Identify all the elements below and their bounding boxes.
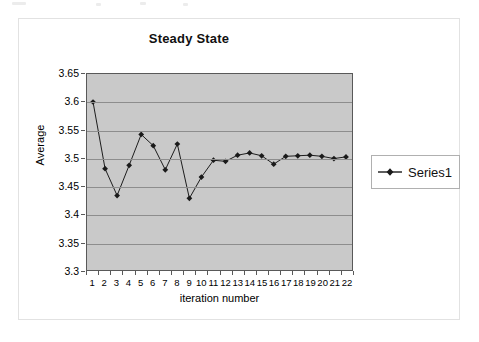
y-axis-tick-mark <box>81 158 85 159</box>
y-axis-tick-mark <box>81 243 85 244</box>
x-axis-tick-label: 5 <box>138 277 143 288</box>
chart-object-frame: Steady State Average 3.653.63.553.53.453… <box>18 18 460 320</box>
data-point-marker <box>114 193 120 199</box>
y-axis-tick-labels: 3.653.63.553.53.453.43.353.3 <box>37 73 83 271</box>
x-axis-tick-mark <box>98 271 99 275</box>
x-axis-tick-mark <box>292 271 293 275</box>
data-point-marker <box>187 195 193 201</box>
data-point-marker <box>126 162 132 168</box>
x-axis-tick-label: 13 <box>232 277 243 288</box>
y-axis-tick-label: 3.5 <box>64 152 79 164</box>
data-point-marker <box>271 161 277 167</box>
x-axis-tick-label: 10 <box>196 277 207 288</box>
x-axis-tick-mark <box>232 271 233 275</box>
x-axis-tick-label: 14 <box>245 277 256 288</box>
series-line-series1 <box>87 74 352 270</box>
x-axis-tick-mark <box>280 271 281 275</box>
series-line <box>93 102 346 198</box>
plot-area <box>86 73 353 271</box>
x-axis-tick-mark <box>171 271 172 275</box>
x-axis-tick-label: 16 <box>269 277 280 288</box>
x-axis-tick-mark <box>268 271 269 275</box>
x-axis-tick-mark <box>341 271 342 275</box>
gridline <box>87 102 352 103</box>
data-point-marker <box>235 152 241 158</box>
x-axis-tick-label: 7 <box>162 277 167 288</box>
y-axis-tick-mark <box>81 186 85 187</box>
x-axis-tick-label: 2 <box>102 277 107 288</box>
scan-artifact <box>0 0 479 10</box>
data-point-marker <box>259 153 265 159</box>
x-axis-tick-label: 11 <box>208 277 218 288</box>
x-axis-tick-mark <box>317 271 318 275</box>
gridline <box>87 215 352 216</box>
x-axis-tick-label: 1 <box>89 277 94 288</box>
y-axis-tick-label: 3.6 <box>64 95 79 107</box>
x-axis-tick-mark <box>135 271 136 275</box>
x-axis-tick-label: 17 <box>281 277 292 288</box>
x-axis-tick-label: 22 <box>342 277 353 288</box>
y-axis-tick-mark <box>81 271 85 272</box>
x-axis-tick-mark <box>304 271 305 275</box>
x-axis-tick-label: 19 <box>305 277 316 288</box>
x-axis-tick-label: 18 <box>293 277 304 288</box>
x-axis-tick-marks <box>86 271 353 276</box>
x-axis-title: iteration number <box>86 292 353 304</box>
y-axis-tick-mark <box>81 73 85 74</box>
gridline <box>87 187 352 188</box>
legend-marker-icon <box>377 166 403 178</box>
x-axis-tick-mark <box>147 271 148 275</box>
legend-entry-label: Series1 <box>408 165 452 180</box>
chart-legend: Series1 <box>371 155 460 189</box>
data-point-marker <box>307 152 313 158</box>
y-axis-tick-label: 3.45 <box>59 180 79 192</box>
x-axis-tick-mark <box>159 271 160 275</box>
y-axis-tick-mark <box>81 130 85 131</box>
gridline <box>87 159 352 160</box>
x-axis-tick-label: 9 <box>187 277 192 288</box>
x-axis-tick-mark <box>329 271 330 275</box>
x-axis-tick-label: 6 <box>150 277 155 288</box>
y-axis-tick-label: 3.55 <box>59 124 79 136</box>
x-axis-tick-label: 20 <box>317 277 328 288</box>
x-axis-tick-mark <box>110 271 111 275</box>
x-axis-tick-labels: 12345678910111213141516171819202122 <box>86 277 353 291</box>
x-axis-tick-label: 8 <box>174 277 179 288</box>
x-axis-tick-mark <box>86 271 87 275</box>
x-axis-tick-label: 4 <box>126 277 131 288</box>
x-axis-tick-mark <box>353 271 354 275</box>
x-axis-tick-label: 3 <box>114 277 119 288</box>
x-axis-tick-mark <box>195 271 196 275</box>
data-point-marker <box>295 153 301 159</box>
gridline <box>87 244 352 245</box>
data-point-marker <box>174 141 180 147</box>
chart-title: Steady State <box>19 31 359 46</box>
scan-smudge <box>96 3 101 6</box>
x-axis-tick-label: 12 <box>220 277 231 288</box>
x-axis-tick-mark <box>183 271 184 275</box>
x-axis-tick-label: 15 <box>257 277 268 288</box>
scan-smudge <box>12 2 26 5</box>
scan-smudge <box>140 2 146 5</box>
x-axis-tick-mark <box>220 271 221 275</box>
x-axis-tick-label: 21 <box>329 277 340 288</box>
scan-smudge <box>183 3 188 6</box>
y-axis-tick-label: 3.3 <box>64 265 79 277</box>
data-point-marker <box>162 167 168 173</box>
y-axis-tick-mark <box>81 214 85 215</box>
x-axis-tick-mark <box>207 271 208 275</box>
data-point-marker <box>102 166 108 172</box>
y-axis-tick-label: 3.4 <box>64 208 79 220</box>
y-axis-tick-label: 3.35 <box>59 237 79 249</box>
y-axis-tick-mark <box>81 101 85 102</box>
x-axis-tick-mark <box>256 271 257 275</box>
x-axis-tick-mark <box>244 271 245 275</box>
y-axis-tick-label: 3.65 <box>59 67 79 79</box>
x-axis-tick-mark <box>122 271 123 275</box>
data-point-marker <box>247 150 253 156</box>
gridline <box>87 131 352 132</box>
